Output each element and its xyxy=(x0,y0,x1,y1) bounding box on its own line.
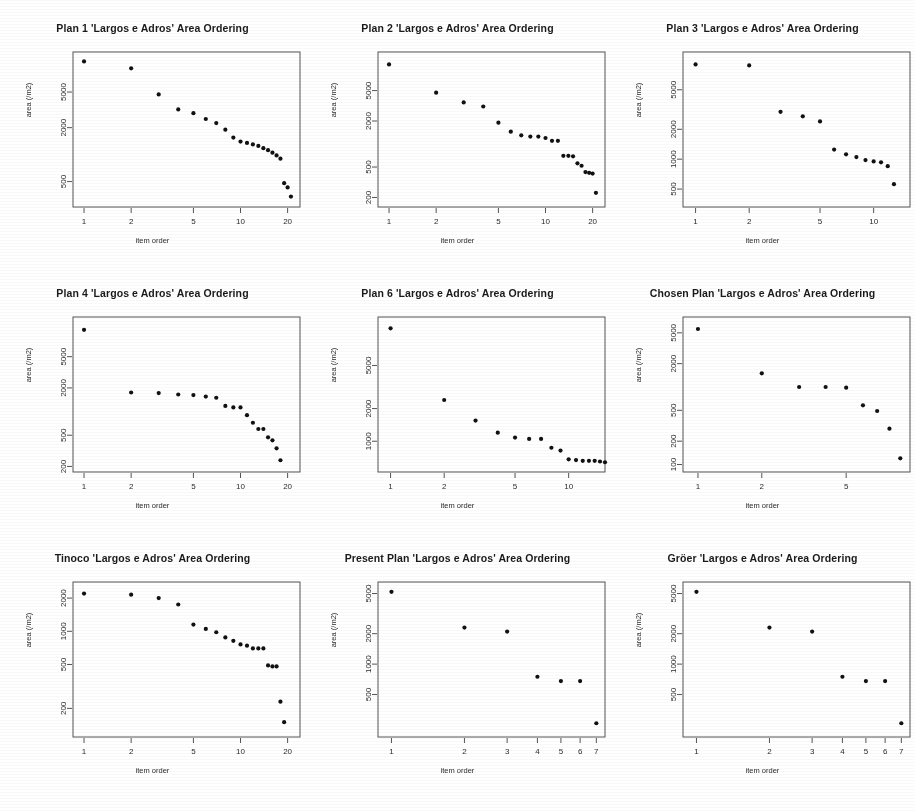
data-point xyxy=(129,390,133,394)
data-point xyxy=(879,160,883,164)
data-point xyxy=(527,437,531,441)
x-tick-label: 7 xyxy=(899,747,904,756)
data-point xyxy=(844,152,848,156)
data-point-series xyxy=(387,62,598,195)
x-tick-label: 20 xyxy=(283,747,292,756)
x-tick-label: 5 xyxy=(191,747,196,756)
x-tick-label: 6 xyxy=(883,747,888,756)
data-point xyxy=(261,146,265,150)
y-axis-label: area (/m2) xyxy=(24,613,33,648)
y-tick-label: 2000 xyxy=(59,589,68,607)
x-axis: 125 xyxy=(696,473,849,491)
data-point-series xyxy=(693,62,896,186)
data-point xyxy=(389,590,393,594)
data-point xyxy=(266,663,270,667)
y-axis-label: area (/m2) xyxy=(24,348,33,383)
data-point xyxy=(861,403,865,407)
y-tick-label: 500 xyxy=(669,687,678,701)
plot-frame xyxy=(73,52,300,207)
data-point xyxy=(513,436,517,440)
y-tick-label: 2000 xyxy=(669,624,678,642)
data-point xyxy=(204,395,208,399)
scatter-plot: 12510020050020005000 xyxy=(610,265,915,530)
y-tick-label: 2000 xyxy=(59,118,68,136)
data-point xyxy=(543,136,547,140)
plot-frame xyxy=(683,582,910,737)
y-axis-label: area (/m2) xyxy=(634,613,643,648)
data-point xyxy=(832,147,836,151)
data-point xyxy=(693,62,697,66)
data-point xyxy=(883,679,887,683)
data-point xyxy=(286,185,290,189)
y-axis: 50020005000 xyxy=(59,83,72,189)
x-tick-label: 3 xyxy=(810,747,815,756)
x-tick-label: 20 xyxy=(283,482,292,491)
y-axis: 500100020005000 xyxy=(364,584,377,701)
data-point-series xyxy=(82,59,293,198)
x-axis: 1251020 xyxy=(82,473,293,491)
x-axis-label: item order xyxy=(610,236,915,245)
y-axis: 20050020005000 xyxy=(59,347,72,473)
data-point xyxy=(864,679,868,683)
chart-panel: Plan 6 'Largos e Adros' Area Ordering125… xyxy=(305,265,610,530)
figure-panel-grid: Plan 1 'Largos e Adros' Area Ordering125… xyxy=(0,0,915,811)
data-point xyxy=(176,602,180,606)
data-point xyxy=(388,326,392,330)
x-axis: 1251020 xyxy=(82,738,293,756)
y-tick-label: 200 xyxy=(669,434,678,448)
x-tick-label: 4 xyxy=(840,747,845,756)
data-point xyxy=(214,121,218,125)
data-point xyxy=(266,148,270,152)
data-point-series xyxy=(694,590,903,726)
x-tick-label: 2 xyxy=(129,747,134,756)
x-tick-label: 5 xyxy=(191,482,196,491)
scatter-plot: 1234567500100020005000 xyxy=(305,530,610,795)
data-point xyxy=(266,435,270,439)
y-axis-label: area (/m2) xyxy=(329,83,338,118)
data-point xyxy=(238,139,242,143)
y-tick-label: 5000 xyxy=(669,80,678,98)
plot-frame xyxy=(73,582,300,737)
data-point xyxy=(549,446,553,450)
y-axis-label: area (/m2) xyxy=(329,613,338,648)
y-tick-label: 5000 xyxy=(669,323,678,341)
data-point xyxy=(760,371,764,375)
data-point xyxy=(157,92,161,96)
x-tick-label: 2 xyxy=(129,217,134,226)
data-point xyxy=(556,139,560,143)
data-point xyxy=(278,458,282,462)
plot-frame xyxy=(378,582,605,737)
data-point xyxy=(840,675,844,679)
x-axis-label: item order xyxy=(305,236,610,245)
x-tick-label: 10 xyxy=(236,482,245,491)
y-tick-label: 2000 xyxy=(364,399,373,417)
x-tick-label: 10 xyxy=(564,482,573,491)
data-point xyxy=(875,409,879,413)
data-point xyxy=(261,427,265,431)
scatter-plot: 1234567500100020005000 xyxy=(610,530,915,795)
data-point xyxy=(567,457,571,461)
y-axis: 500100020005000 xyxy=(669,584,682,701)
data-point xyxy=(566,154,570,158)
figure-caption xyxy=(30,792,890,808)
x-tick-label: 2 xyxy=(747,217,752,226)
data-point xyxy=(231,639,235,643)
data-point-series xyxy=(82,328,283,463)
data-point xyxy=(536,135,540,139)
x-axis-label: item order xyxy=(0,236,305,245)
data-point-series xyxy=(696,327,903,461)
data-point xyxy=(289,194,293,198)
data-point xyxy=(747,63,751,67)
y-tick-label: 1000 xyxy=(669,150,678,168)
y-tick-label: 500 xyxy=(364,160,373,174)
y-tick-label: 2000 xyxy=(59,378,68,396)
data-point xyxy=(256,144,260,148)
x-tick-label: 2 xyxy=(462,747,467,756)
data-point xyxy=(256,646,260,650)
x-tick-label: 1 xyxy=(696,482,701,491)
x-tick-label: 5 xyxy=(191,217,196,226)
x-axis-label: item order xyxy=(0,501,305,510)
data-point xyxy=(561,154,565,158)
x-axis-label: item order xyxy=(610,766,915,775)
y-axis: 20050020005000 xyxy=(364,81,377,204)
